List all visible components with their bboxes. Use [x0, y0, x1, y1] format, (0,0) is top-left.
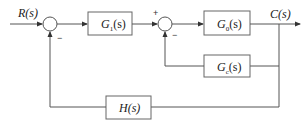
block-h-label: H(s) — [118, 101, 140, 115]
sum1-minus-sign: − — [57, 33, 62, 43]
block-g0-label: G0(s) — [217, 17, 242, 33]
block-gc-label: Gc(s) — [217, 60, 241, 76]
summing-junction-1 — [43, 17, 57, 31]
input-label: R(s) — [17, 6, 38, 20]
block-diagram: R(s) − G1(s) + − G0(s) C(s) Gc(s) H(s) — [0, 0, 304, 132]
summing-junction-2 — [158, 17, 172, 31]
block-g0: G0(s) — [204, 11, 250, 35]
sum2-minus-sign: − — [172, 30, 177, 40]
block-g1-label: G1(s) — [101, 17, 126, 33]
block-g1: G1(s) — [88, 12, 132, 35]
output-label: C(s) — [270, 7, 291, 21]
block-gc: Gc(s) — [204, 55, 250, 77]
gc-to-sum2-line — [165, 32, 204, 66]
sum2-plus-sign: + — [153, 8, 158, 18]
block-h: H(s) — [106, 96, 151, 119]
h-to-sum1-line — [50, 32, 106, 107]
